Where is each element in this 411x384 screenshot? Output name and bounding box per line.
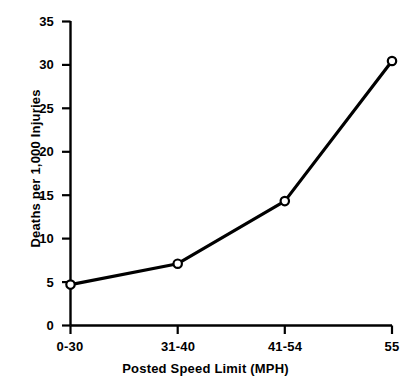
data-point [66, 280, 74, 288]
data-point [281, 197, 289, 205]
data-point-markers [66, 57, 396, 289]
y-tick-label-35: 35 [22, 15, 54, 28]
x-tick-label-31-40: 31-40 [161, 340, 195, 353]
data-point [388, 57, 396, 65]
y-tick-label-0: 0 [22, 319, 54, 332]
x-axis-title: Posted Speed Limit (MPH) [0, 362, 411, 375]
x-tick-label-41-54: 41-54 [268, 340, 302, 353]
y-axis-title: Deaths per 1,000 Injuries [29, 49, 42, 289]
x-tick-label-55: 55 [385, 340, 400, 353]
x-tick-label-0-30: 0-30 [57, 340, 84, 353]
data-point [174, 260, 182, 268]
plot-area [0, 0, 411, 384]
data-line [71, 61, 393, 285]
line-chart: 35 30 25 20 15 10 5 0 0-30 31-40 41-54 5… [0, 0, 411, 384]
x-axis-ticks [71, 326, 393, 335]
